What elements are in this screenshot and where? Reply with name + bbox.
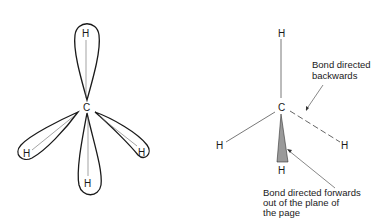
right-h-bottom: H bbox=[278, 165, 285, 176]
right-carbon-label: C bbox=[278, 102, 285, 113]
label-forwards-line3: the page bbox=[263, 207, 300, 218]
bond-plane-left bbox=[226, 112, 275, 142]
left-carbon-label: C bbox=[83, 102, 90, 113]
label-backwards-line2: backwards bbox=[312, 70, 358, 81]
left-h-top: H bbox=[82, 28, 89, 39]
bond-dashed-back bbox=[290, 111, 340, 142]
methane-diagram: C H H H H C H H H H Bond directed backwa… bbox=[0, 0, 388, 223]
left-h-right: H bbox=[138, 147, 145, 158]
right-h-top: H bbox=[278, 28, 285, 39]
left-h-bottom: H bbox=[84, 178, 91, 189]
arrow-forwards bbox=[288, 150, 335, 188]
right-h-right: H bbox=[341, 140, 348, 151]
arrow-backwards bbox=[306, 85, 323, 110]
bond-left bbox=[32, 116, 74, 150]
right-h-left: H bbox=[216, 140, 223, 151]
label-backwards-line1: Bond directed bbox=[312, 59, 371, 70]
bond-wedge-forward bbox=[277, 114, 288, 162]
left-h-left: H bbox=[23, 148, 30, 159]
